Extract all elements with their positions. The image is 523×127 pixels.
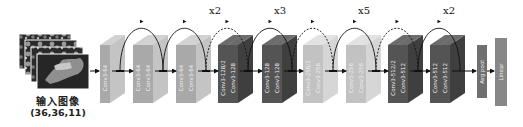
conv-block-side — [450, 35, 465, 103]
arc-arrowhead-icon — [183, 20, 187, 23]
conv-block-side — [282, 35, 297, 103]
arc-arrowhead-icon — [140, 20, 144, 23]
arc-arrowhead-icon — [226, 20, 230, 23]
conv-block-label: Conv3-64 — [145, 64, 151, 91]
conv-block-label: Conv3-64 — [188, 64, 194, 91]
conv-block: Conv3-256 — [356, 35, 381, 103]
conv-block: Conv3-128 — [272, 35, 297, 103]
conv-block: Conv3-256 — [313, 35, 338, 103]
conv-block-label: Conv3-512/2 — [390, 60, 396, 95]
arc-arrowhead-icon — [438, 20, 442, 23]
conv-block-label: Conv3-512 — [432, 63, 438, 93]
conv-block-side — [408, 35, 423, 103]
repeat-count-label: x3 — [274, 5, 286, 16]
conv-block-label: Conv3-256 — [358, 63, 364, 93]
repeat-count-label: x2 — [209, 5, 221, 16]
repeat-count-label: x5 — [358, 5, 370, 16]
conv-block-label: Conv3-256/2 — [305, 60, 311, 95]
input-shape-label: (36,36,11) — [28, 107, 88, 118]
conv-block-side — [196, 35, 211, 103]
conv-block-label: Conv3-256 — [315, 63, 321, 93]
conv-block-side — [238, 35, 253, 103]
conv-block-label: Conv3-64 — [178, 64, 184, 91]
linear-label: Linear — [498, 63, 504, 81]
conv-block: Conv3-64 — [143, 35, 168, 103]
avg-pool-label: Avg pool — [479, 60, 486, 84]
arc-arrowhead-icon — [396, 20, 400, 23]
conv-block-label: Conv3-128 — [230, 63, 236, 93]
conv-block-side — [323, 35, 338, 103]
input-image-stack — [19, 34, 89, 89]
conv-block-label: Conv3-128 — [264, 63, 270, 93]
conv-blocks: Conv3-64Conv3-64Conv3-64Conv3-64Conv3-64… — [100, 35, 465, 103]
conv-block-label: Conv3-64 — [135, 64, 141, 91]
conv-block: Conv3-512 — [398, 35, 423, 103]
conv-block-side — [366, 35, 381, 103]
conv-block-side — [110, 35, 125, 103]
conv-block: Conv3-128 — [228, 35, 253, 103]
conv-block-label: Conv3-512 — [442, 63, 448, 93]
conv-block: Conv3-64 — [186, 35, 211, 103]
conv-block: Conv3-64 — [100, 35, 125, 103]
conv-block-label: Conv3-256 — [348, 63, 354, 93]
arc-arrowhead-icon — [353, 20, 357, 23]
conv-block: Conv3-512 — [440, 35, 465, 103]
conv-block-label: Conv3-128/2 — [220, 60, 226, 95]
conv-block-label: Conv3-512 — [400, 63, 406, 93]
conv-block-side — [153, 35, 168, 103]
arc-arrowhead-icon — [311, 20, 315, 23]
conv-block-label: Conv3-64 — [102, 64, 108, 91]
conv-block-label: Conv3-128 — [274, 63, 280, 93]
linear-layer: Linear — [495, 38, 507, 106]
arc-arrowhead-icon — [269, 20, 273, 23]
repeat-count-label: x2 — [443, 5, 455, 16]
input-image-label: 输入图像 — [28, 93, 88, 108]
avg-pool-layer: Avg pool — [477, 45, 487, 98]
